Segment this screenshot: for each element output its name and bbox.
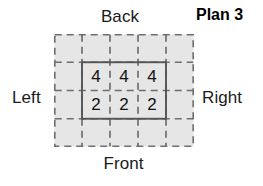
- plan-cell: 4: [138, 62, 166, 90]
- orientation-label-left: Left: [12, 88, 41, 108]
- plan-cell: 2: [110, 91, 138, 119]
- orientation-label-right: Right: [202, 88, 242, 108]
- page-title: Plan 3: [196, 5, 243, 25]
- grid-container: 4 4 4 2 2 2: [54, 34, 194, 147]
- plan-cell: 2: [138, 91, 166, 119]
- orientation-label-front: Front: [0, 154, 247, 174]
- plan-cell: 4: [110, 62, 138, 90]
- plan-value-grid: 4 4 4 2 2 2: [82, 62, 166, 119]
- plan-diagram: Back Plan 3 Left Right 4 4 4: [0, 0, 263, 186]
- plan-cell: 2: [82, 91, 110, 119]
- plan-cell: 4: [82, 62, 110, 90]
